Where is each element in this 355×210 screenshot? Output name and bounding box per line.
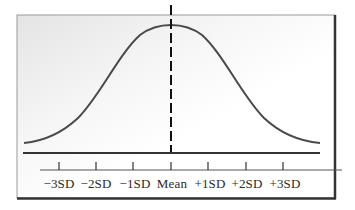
- axis-label-plus-2sd: +2SD: [231, 176, 262, 192]
- axis-label-minus-1sd: −1SD: [119, 176, 150, 192]
- axis-label-minus-3sd: −3SD: [43, 176, 74, 192]
- axis-label-mean: Mean: [157, 176, 187, 192]
- bell-curve-diagram: −3SD −2SD −1SD Mean +1SD +2SD +3SD: [0, 0, 355, 210]
- axis-label-plus-3sd: +3SD: [269, 176, 300, 192]
- axis-label-minus-2sd: −2SD: [80, 176, 111, 192]
- axis-label-plus-1sd: +1SD: [194, 176, 225, 192]
- diagram-frame: [17, 15, 335, 198]
